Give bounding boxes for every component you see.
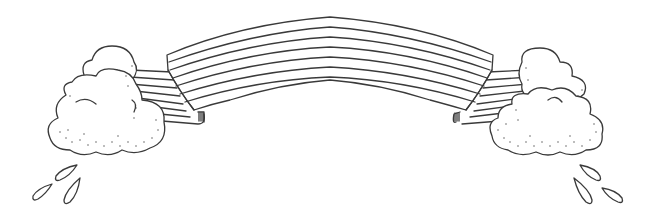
left-cloud	[48, 46, 165, 155]
rainbow-banner	[167, 17, 493, 110]
raindrop	[580, 165, 601, 181]
rainbow-banner-illustration	[0, 0, 658, 218]
raindrop	[56, 165, 78, 181]
raindrop	[64, 178, 80, 204]
raindrop	[602, 188, 623, 203]
right-cloud	[490, 48, 603, 155]
right-raindrops	[574, 165, 623, 204]
raindrop	[574, 178, 592, 204]
raindrop	[33, 184, 52, 200]
left-raindrops	[33, 165, 80, 204]
